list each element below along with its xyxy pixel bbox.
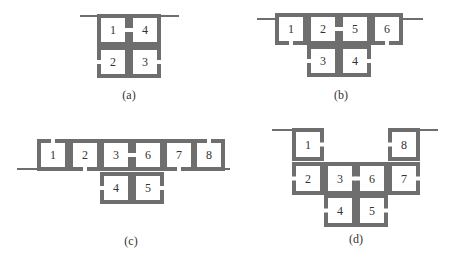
room-number: 2 [110, 55, 116, 69]
room-number: 2 [320, 22, 326, 36]
room-number: 6 [384, 22, 390, 36]
room-number: 3 [337, 172, 343, 186]
room-number: 5 [145, 181, 151, 195]
panel-b: 125634(b) [257, 15, 423, 102]
room-number: 8 [401, 138, 407, 152]
room-box: 6 [373, 15, 401, 43]
room-number: 4 [113, 181, 119, 195]
room-box: 6 [134, 141, 162, 169]
room-number: 5 [352, 22, 358, 36]
room-number: 4 [337, 204, 343, 218]
room-box: 3 [131, 48, 159, 76]
room-box: 1 [294, 130, 322, 159]
panels-root: 1423(a)125634(b)12367845(c)18236745(d) [17, 15, 438, 248]
panel-caption: (b) [334, 88, 348, 102]
room-number: 3 [320, 54, 326, 68]
panel-c: 12367845(c) [17, 141, 230, 248]
room-box: 5 [134, 174, 162, 202]
room-box: 3 [102, 141, 130, 169]
room-number: 4 [142, 23, 148, 37]
room-box: 8 [390, 130, 418, 159]
room-box: 4 [326, 196, 354, 225]
room-number: 2 [305, 172, 311, 186]
room-box: 4 [131, 16, 159, 44]
panel-d: 18236745(d) [272, 130, 438, 246]
room-number: 8 [206, 148, 212, 162]
room-box: 3 [326, 164, 354, 193]
room-number: 5 [369, 204, 375, 218]
room-box: 2 [99, 48, 127, 76]
room-box: 4 [102, 174, 130, 202]
room-number: 1 [110, 23, 116, 37]
room-number: 3 [142, 55, 148, 69]
panel-caption: (a) [122, 88, 135, 102]
room-number: 6 [369, 172, 375, 186]
room-layout-diagram: 1423(a)125634(b)12367845(c)18236745(d) [0, 0, 451, 260]
room-box: 2 [294, 164, 322, 193]
room-box: 5 [341, 15, 369, 43]
panel-caption: (d) [349, 232, 363, 246]
room-number: 7 [176, 148, 182, 162]
room-box: 2 [71, 141, 99, 169]
room-number: 1 [305, 138, 311, 152]
room-box: 2 [309, 15, 337, 43]
room-number: 1 [50, 148, 56, 162]
room-box: 4 [341, 47, 369, 75]
room-box: 1 [99, 16, 127, 44]
room-number: 2 [82, 148, 88, 162]
room-box: 3 [309, 47, 337, 75]
room-number: 1 [288, 22, 294, 36]
room-box: 7 [390, 164, 418, 193]
room-number: 3 [113, 148, 119, 162]
room-number: 7 [401, 172, 407, 186]
panel-a: 1423(a) [80, 16, 179, 102]
room-box: 8 [195, 141, 223, 169]
panel-caption: (c) [124, 234, 137, 248]
room-box: 6 [358, 164, 386, 193]
room-box: 7 [165, 141, 193, 169]
room-number: 4 [352, 54, 358, 68]
room-number: 6 [145, 148, 151, 162]
room-box: 1 [277, 15, 305, 43]
room-box: 5 [358, 196, 386, 225]
room-box: 1 [39, 141, 67, 169]
